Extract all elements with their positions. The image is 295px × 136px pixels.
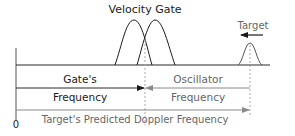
gate-frequency-label-1: Gate's: [63, 73, 97, 85]
oscillator-frequency-label-1: Oscillator: [173, 73, 223, 85]
gate-curve-left: [115, 20, 152, 65]
target-label: Target: [238, 20, 269, 32]
origin-label: 0: [13, 119, 19, 131]
doppler-frequency-label: Target's Predicted Doppler Frequency: [42, 114, 229, 126]
gate-curve-right: [137, 20, 175, 65]
velocity-gate-title: Velocity Gate: [109, 4, 182, 16]
gate-frequency-label-2: Frequency: [53, 91, 107, 103]
oscillator-frequency-label-2: Frequency: [171, 91, 225, 103]
